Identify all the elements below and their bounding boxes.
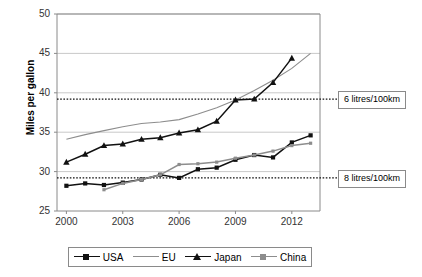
legend: USA EU Japan China <box>68 247 312 267</box>
reference-label-6l: 6 litres/100km <box>338 91 406 109</box>
y-tick-50: 50 <box>22 8 50 19</box>
x-tick-2003: 2003 <box>101 216 145 227</box>
legend-label-japan: Japan <box>214 252 241 263</box>
legend-key-japan-icon <box>185 252 211 262</box>
reference-label-8l: 8 litres/100km <box>338 170 406 188</box>
legend-key-china-icon <box>251 252 277 262</box>
x-tick-2000: 2000 <box>44 216 88 227</box>
x-tick-2006: 2006 <box>157 216 201 227</box>
y-tick-45: 45 <box>22 47 50 58</box>
fuel-economy-chart: Miles per gallon 253035404550 2000200320… <box>0 0 422 277</box>
y-tick-25: 25 <box>22 205 50 216</box>
legend-label-china: China <box>280 252 306 263</box>
legend-key-usa-icon <box>74 252 100 262</box>
x-tick-2009: 2009 <box>213 216 257 227</box>
legend-label-usa: USA <box>103 252 124 263</box>
legend-item-usa: USA <box>74 252 124 263</box>
legend-label-eu: EU <box>162 252 176 263</box>
legend-key-eu-icon <box>133 252 159 262</box>
legend-item-japan: Japan <box>185 252 241 263</box>
plot-area <box>0 0 422 277</box>
x-tick-2012: 2012 <box>270 216 314 227</box>
y-tick-40: 40 <box>22 87 50 98</box>
legend-item-china: China <box>251 252 306 263</box>
y-tick-30: 30 <box>22 166 50 177</box>
y-tick-35: 35 <box>22 126 50 137</box>
legend-item-eu: EU <box>133 252 176 263</box>
